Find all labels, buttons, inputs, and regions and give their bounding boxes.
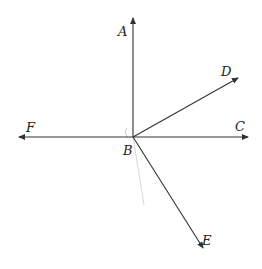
label-F: F bbox=[25, 120, 36, 135]
ray-BD bbox=[133, 78, 238, 137]
ray-BE bbox=[133, 137, 203, 248]
geometry-diagram: A B C D E F bbox=[0, 0, 262, 269]
faint-line bbox=[133, 137, 144, 205]
label-D: D bbox=[220, 64, 232, 79]
label-E: E bbox=[201, 233, 212, 248]
label-B: B bbox=[122, 143, 133, 158]
label-A: A bbox=[117, 24, 127, 39]
label-C: C bbox=[235, 119, 245, 134]
faint-angle-mark bbox=[125, 128, 128, 137]
